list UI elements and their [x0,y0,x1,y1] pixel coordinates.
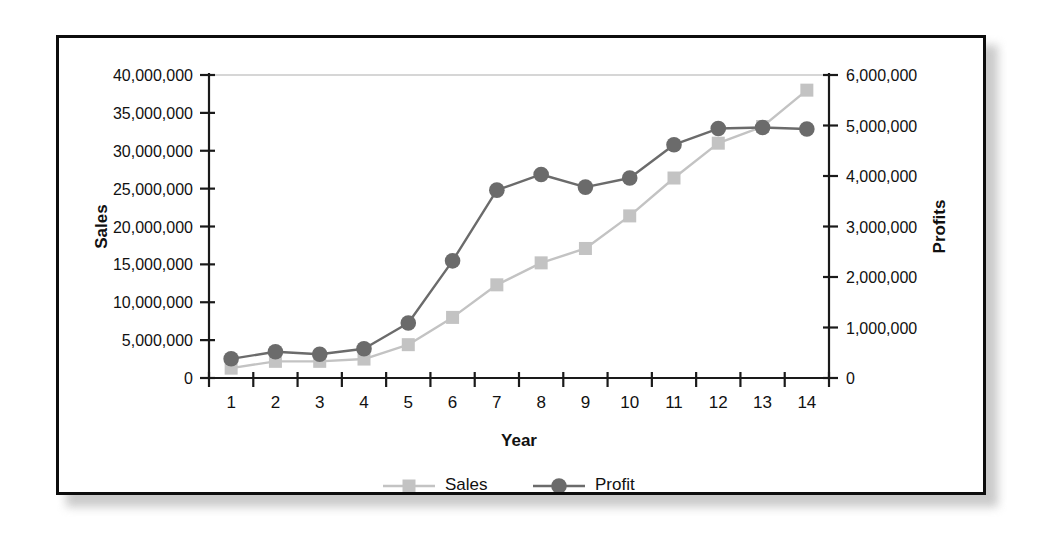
x-axis-tick-label: 8 [536,393,545,412]
right-axis-tick-label: 6,000,000 [846,67,917,84]
x-axis-tick-label: 11 [665,393,683,412]
right-axis-tick-label: 3,000,000 [846,219,917,236]
series-line-profit [231,128,807,359]
legend-item-profit: Profit [533,475,635,492]
x-axis-tick-label: 12 [709,393,728,412]
left-axis-tick-label: 40,000,000 [113,67,193,84]
left-axis-tick-label: 10,000,000 [113,294,193,311]
data-point-sales [535,256,548,269]
data-point-sales [668,172,681,185]
chart-plot-area: 05,000,00010,000,00015,000,00020,000,000… [59,38,983,492]
right-axis-tick-label: 4,000,000 [846,168,917,185]
x-axis-tick-label: 4 [359,393,368,412]
right-axis-tick-label: 0 [846,370,855,387]
data-point-sales [490,278,503,291]
x-axis-tick-label: 5 [404,393,413,412]
data-point-sales [579,242,592,255]
x-axis-tick-label: 3 [315,393,324,412]
data-point-profit [755,120,771,136]
data-point-profit [400,315,416,331]
legend-label-profit: Profit [595,475,635,492]
data-point-sales [446,311,459,324]
data-point-sales [712,137,725,150]
data-point-sales [800,84,813,97]
y-axis-title: Sales [92,204,111,248]
left-axis-tick-label: 15,000,000 [113,256,193,273]
left-axis-tick-label: 20,000,000 [113,219,193,236]
data-point-profit [356,341,372,357]
x-axis-tick-label: 7 [492,393,501,412]
left-axis-tick-label: 0 [184,370,193,387]
data-point-profit [710,121,726,137]
data-point-profit [533,167,549,183]
x-axis-tick-label: 1 [226,393,235,412]
legend-item-sales: Sales [383,475,488,492]
right-axis-tick-label: 5,000,000 [846,118,917,135]
x-axis-tick-label: 14 [797,393,816,412]
sales-profit-line-chart: 05,000,00010,000,00015,000,00020,000,000… [59,38,983,492]
legend-label-sales: Sales [445,475,488,492]
left-axis-tick-label: 30,000,000 [113,143,193,160]
x-axis-tick-label: 6 [448,393,457,412]
chart-figure-frame: 05,000,00010,000,00015,000,00020,000,000… [56,35,986,495]
x-axis-tick-label: 2 [271,393,280,412]
legend-marker-square-icon [403,480,416,493]
data-point-profit [666,137,682,153]
data-point-profit [489,182,505,198]
right-axis-tick-label: 2,000,000 [846,269,917,286]
data-point-profit [268,344,284,360]
data-point-profit [622,170,638,186]
data-point-sales [402,338,415,351]
x-axis-tick-label: 9 [581,393,590,412]
data-point-profit [578,179,594,195]
data-point-profit [223,351,239,367]
data-point-sales [623,209,636,222]
data-point-profit [799,121,815,137]
data-point-profit [445,253,461,269]
data-point-profit [312,346,328,362]
left-axis-tick-label: 35,000,000 [113,105,193,122]
x-axis-tick-label: 13 [753,393,772,412]
right-axis-tick-label: 1,000,000 [846,320,917,337]
series-profit [223,120,814,367]
legend-marker-circle-icon [551,478,567,492]
left-axis-tick-label: 5,000,000 [122,332,193,349]
x-axis-title: Year [501,431,537,450]
y2-axis-title: Profits [930,200,949,254]
left-axis-tick-label: 25,000,000 [113,181,193,198]
x-axis-tick-label: 10 [620,393,639,412]
